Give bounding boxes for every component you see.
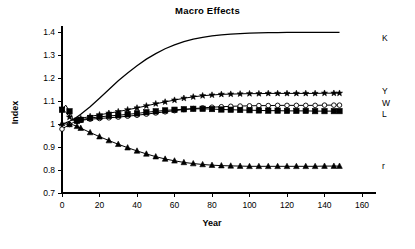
x-tick-label: 40 bbox=[132, 200, 142, 210]
marker-star-filled bbox=[171, 97, 177, 103]
marker-star-filled bbox=[336, 90, 342, 96]
marker-star-filled bbox=[218, 91, 224, 97]
marker-star-filled bbox=[312, 90, 318, 96]
x-tick-label: 80 bbox=[207, 200, 217, 210]
marker-square-filled bbox=[153, 109, 158, 114]
marker-star-filled bbox=[275, 90, 281, 96]
marker-square-filled bbox=[162, 108, 167, 113]
series-label-L: L bbox=[382, 109, 387, 119]
marker-square-filled bbox=[331, 108, 336, 113]
marker-circle-open bbox=[294, 103, 299, 108]
marker-star-filled bbox=[293, 90, 299, 96]
marker-circle-open bbox=[313, 103, 318, 108]
series-line-r bbox=[62, 124, 340, 167]
marker-square-filled bbox=[106, 113, 111, 118]
plot-area: 0.70.80.911.11.21.31.4020406080100120140… bbox=[0, 0, 415, 249]
marker-star-filled bbox=[237, 91, 243, 97]
y-axis-title: Index bbox=[10, 101, 20, 125]
x-tick-label: 140 bbox=[317, 200, 331, 210]
marker-square-filled bbox=[284, 108, 289, 113]
marker-star-filled bbox=[153, 101, 159, 107]
marker-star-filled bbox=[265, 90, 271, 96]
marker-circle-open bbox=[275, 103, 280, 108]
x-tick-label: 160 bbox=[355, 200, 369, 210]
marker-square-filled bbox=[237, 107, 242, 112]
marker-star-filled bbox=[321, 90, 327, 96]
marker-star-filled bbox=[209, 92, 215, 98]
marker-square-filled bbox=[116, 113, 121, 118]
y-tick-label: 0.7 bbox=[43, 188, 55, 198]
marker-circle-open bbox=[332, 103, 337, 108]
macro-effects-chart: Macro Effects 0.70.80.911.11.21.31.40204… bbox=[0, 0, 415, 249]
y-tick-label: 1.1 bbox=[43, 96, 55, 106]
marker-square-filled bbox=[303, 108, 308, 113]
y-tick-label: 0.9 bbox=[43, 142, 55, 152]
y-tick-label: 0.8 bbox=[43, 165, 55, 175]
marker-circle-open bbox=[60, 127, 65, 132]
marker-square-filled bbox=[78, 117, 83, 122]
marker-square-filled bbox=[200, 106, 205, 111]
marker-circle-open bbox=[285, 103, 290, 108]
marker-square-filled bbox=[312, 108, 317, 113]
marker-square-filled bbox=[97, 114, 102, 119]
x-tick-label: 100 bbox=[242, 200, 256, 210]
x-axis-title: Year bbox=[202, 218, 222, 228]
marker-star-filled bbox=[303, 90, 309, 96]
marker-square-filled bbox=[219, 107, 224, 112]
marker-square-filled bbox=[228, 107, 233, 112]
marker-square-filled bbox=[209, 106, 214, 111]
marker-square-filled bbox=[256, 108, 261, 113]
x-tick-label: 20 bbox=[95, 200, 105, 210]
marker-square-filled bbox=[134, 111, 139, 116]
marker-square-filled bbox=[125, 112, 130, 117]
marker-star-filled bbox=[331, 90, 337, 96]
marker-square-filled bbox=[59, 107, 64, 112]
series-label-W: W bbox=[382, 98, 390, 108]
marker-square-filled bbox=[266, 108, 271, 113]
marker-star-filled bbox=[162, 99, 168, 105]
x-tick-label: 0 bbox=[60, 200, 65, 210]
y-tick-label: 1.3 bbox=[43, 50, 55, 60]
series-label-K: K bbox=[382, 33, 388, 43]
marker-circle-open bbox=[266, 103, 271, 108]
marker-square-filled bbox=[322, 108, 327, 113]
marker-square-filled bbox=[144, 110, 149, 115]
x-tick-label: 60 bbox=[170, 200, 180, 210]
marker-circle-open bbox=[337, 103, 342, 108]
marker-square-filled bbox=[294, 108, 299, 113]
marker-square-filled bbox=[247, 108, 252, 113]
marker-star-filled bbox=[190, 94, 196, 100]
marker-star-filled bbox=[246, 90, 252, 96]
series-label-Y: Y bbox=[382, 86, 388, 96]
marker-circle-open bbox=[257, 103, 262, 108]
marker-star-filled bbox=[134, 105, 140, 111]
marker-star-filled bbox=[228, 91, 234, 97]
series-label-r: r bbox=[382, 161, 385, 171]
marker-square-filled bbox=[181, 107, 186, 112]
y-tick-label: 1.2 bbox=[43, 73, 55, 83]
marker-star-filled bbox=[284, 90, 290, 96]
marker-square-filled bbox=[87, 115, 92, 120]
marker-square-filled bbox=[172, 107, 177, 112]
marker-star-filled bbox=[200, 93, 206, 99]
y-tick-label: 1.4 bbox=[43, 27, 55, 37]
marker-star-filled bbox=[143, 103, 149, 109]
marker-square-filled bbox=[337, 108, 342, 113]
marker-star-filled bbox=[181, 95, 187, 101]
marker-star-filled bbox=[256, 90, 262, 96]
marker-square-filled bbox=[275, 108, 280, 113]
marker-square-filled bbox=[67, 109, 72, 114]
marker-circle-open bbox=[322, 103, 327, 108]
marker-circle-open bbox=[303, 103, 308, 108]
y-tick-label: 1 bbox=[50, 119, 55, 129]
x-tick-label: 120 bbox=[280, 200, 294, 210]
marker-square-filled bbox=[191, 106, 196, 111]
